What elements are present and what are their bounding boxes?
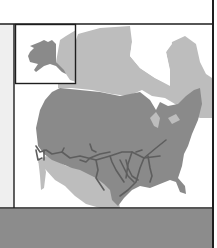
left-margin-panel: [0, 24, 14, 208]
map-figure: [0, 0, 217, 248]
right-edge-strip: [214, 0, 217, 248]
bottom-bar: [0, 209, 212, 248]
